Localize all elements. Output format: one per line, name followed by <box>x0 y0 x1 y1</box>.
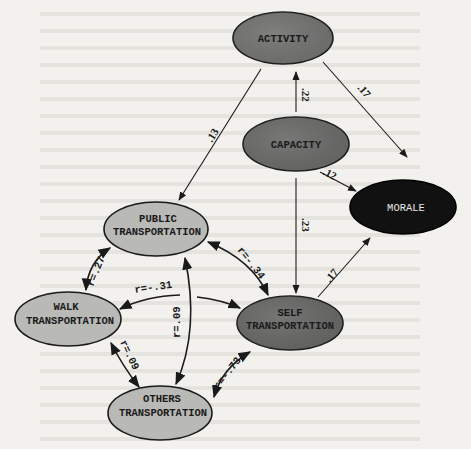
node-walk-transportation: WALK TRANSPORTATION <box>15 292 121 346</box>
node-label-public-line2: TRANSPORTATION <box>113 226 201 238</box>
node-label-walk-line1: WALK <box>53 301 79 313</box>
node-label-others-line2: TRANSPORTATION <box>119 407 207 419</box>
path-label-capacity-activity: .22 <box>300 88 312 102</box>
node-label-walk-line2: TRANSPORTATION <box>26 315 114 327</box>
corr-label-public-others: r=.09 <box>171 306 183 338</box>
node-label-self-line1: SELF <box>277 307 302 319</box>
node-morale: MORALE <box>350 180 456 234</box>
node-capacity: CAPACITY <box>243 117 349 171</box>
corr-label-walk-self: r=-.31 <box>134 279 173 296</box>
node-label-activity: ACTIVITY <box>258 33 309 45</box>
path-diagram: .22 .17 .13 .12 .23 .17 r=.27 r=-.34 r=-… <box>0 0 471 449</box>
path-label-capacity-self: .23 <box>300 218 312 232</box>
node-label-public-line1: PUBLIC <box>139 213 178 225</box>
node-public-transportation: PUBLIC TRANSPORTATION <box>104 202 208 256</box>
node-label-morale: MORALE <box>387 202 425 214</box>
path-label-activity-public: .13 <box>203 126 221 144</box>
node-label-others-line1: OTHERS <box>143 393 181 405</box>
corr-label-public-walk: r=.27 <box>85 254 108 288</box>
node-label-self-line2: TRANSPORTATION <box>246 320 334 332</box>
node-activity: ACTIVITY <box>233 12 333 64</box>
node-self-transportation: SELF TRANSPORTATION <box>237 296 343 350</box>
node-others-transportation: OTHERS TRANSPORTATION <box>108 386 212 440</box>
node-label-capacity: CAPACITY <box>271 139 322 151</box>
